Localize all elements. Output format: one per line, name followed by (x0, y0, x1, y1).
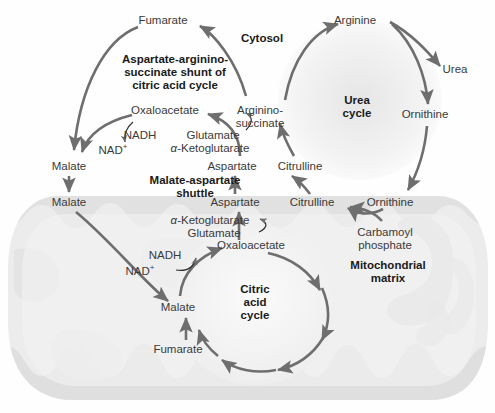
metabolite-malate-matrix-cycle: Malate (161, 301, 196, 313)
shunt-title: Aspartate-arginino- succinate shunt of c… (122, 53, 228, 92)
citric-acid-cycle-title: Citric acid cycle (240, 283, 269, 322)
metabolite-oxaloacetate-cytosol: Oxaloacetate (131, 104, 199, 116)
nad-superscript: + (123, 142, 128, 151)
metabolite-ornithine-matrix: Ornithine (367, 196, 414, 208)
metabolite-citrulline-matrix: Citrulline (290, 196, 335, 208)
metabolite-glutamate-cytosol: Glutamate (186, 129, 239, 141)
metabolite-malate-matrix: Malate (52, 196, 87, 208)
metabolite-glutamate-matrix: Glutamate (187, 227, 240, 239)
metabolite-urea: Urea (443, 63, 468, 75)
akg-text: -Ketoglutarate (177, 214, 249, 226)
metabolite-fumarate-cytosol: Fumarate (138, 14, 187, 26)
metabolite-carbamoyl-phosphate: Carbamoyl phosphate (357, 226, 413, 252)
nad-text: NAD (99, 144, 123, 156)
metabolite-argininosuccinate: Arginino- succinate (236, 104, 285, 130)
metabolite-alpha-ketoglutarate-matrix: α-Ketoglutarate (171, 214, 250, 226)
cofactor-nad-plus-cytosol: NAD+ (99, 143, 128, 156)
nad-superscript: + (150, 263, 155, 272)
metabolite-fumarate-matrix: Fumarate (153, 343, 202, 355)
metabolite-aspartate-matrix: Aspartate (210, 196, 259, 208)
arrow-citrulline-mito-to-cyt (292, 176, 310, 194)
metabolite-malate-cytosol: Malate (52, 160, 87, 172)
cofactor-nad-plus-matrix: NAD+ (126, 264, 155, 277)
urea-cycle-title: Urea cycle (343, 94, 372, 120)
cofactor-nadh-matrix: NADH (149, 249, 182, 261)
metabolite-ornithine-cytosol: Ornithine (402, 108, 449, 120)
cofactor-nadh-cytosol: NADH (124, 129, 157, 141)
cytosol-label: Cytosol (241, 32, 283, 44)
metabolite-citrulline-cytosol: Citrulline (278, 160, 323, 172)
metabolite-aspartate-cytosol: Aspartate (207, 160, 256, 172)
metabolite-alpha-ketoglutarate-cytosol: α-Ketoglutarate (171, 142, 250, 154)
mitochondrial-matrix-label: Mitochondrial matrix (350, 259, 425, 285)
metabolite-arginine: Arginine (334, 14, 376, 26)
diagram-canvas: Cytosol Mitochondrial matrix Aspartate-a… (0, 0, 495, 413)
akg-text: -Ketoglutarate (177, 142, 249, 154)
nad-text: NAD (126, 265, 150, 277)
metabolite-oxaloacetate-matrix: Oxaloacetate (217, 239, 285, 251)
